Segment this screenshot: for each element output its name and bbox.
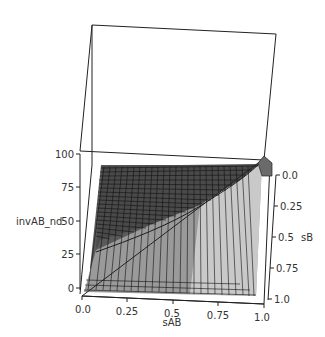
x-axis <box>82 296 264 308</box>
y-tick-label: 0.5 <box>278 232 294 243</box>
z-tick-label: 50 <box>61 216 74 227</box>
y-axis-title: sB <box>301 232 313 243</box>
z-tick-label: 100 <box>55 149 74 160</box>
surface-plot: 100 75 50 25 0 invAB_nd 0.0 0.25 0.5 0.7… <box>0 0 325 337</box>
z-tick-label: 75 <box>61 182 74 193</box>
y-tick-label: 1.0 <box>274 294 290 305</box>
x-tick-label: 0.25 <box>116 306 138 317</box>
x-tick-label: 0.0 <box>75 304 91 315</box>
x-axis-title: sAB <box>163 317 182 328</box>
y-tick-label: 0.75 <box>276 263 298 274</box>
x-tick-label: 0.75 <box>207 310 229 321</box>
z-tick-label: 25 <box>61 249 74 260</box>
y-tick-label: 0.0 <box>282 170 298 181</box>
z-axis-title: invAB_nd <box>16 216 62 228</box>
y-tick-label: 0.25 <box>280 201 302 212</box>
bounding-box <box>80 25 276 165</box>
z-tick-label: 0 <box>68 283 74 294</box>
z-axis <box>76 154 80 290</box>
x-tick-label: 1.0 <box>254 312 270 323</box>
